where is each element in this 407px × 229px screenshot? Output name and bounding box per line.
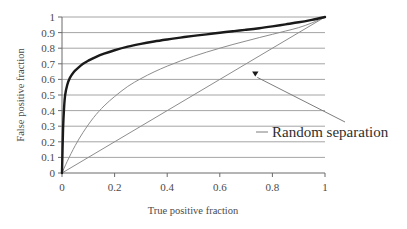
chart-canvas: 1 0.9 0.8 0.7 0.6 0.5 0.4 0.3 0.2 0.1 0 … [0,0,407,229]
y-tick-label: 0.1 [41,151,55,163]
annotation-label: Random separation [272,124,389,140]
y-tick-label: 0.4 [41,105,55,117]
y-tick-label: 0.8 [41,42,55,54]
x-tick-label: 0.4 [160,181,174,193]
y-tick-label: 0.3 [41,120,55,132]
y-tick-label: 0.6 [41,73,55,85]
x-tick-label: 0.8 [266,181,280,193]
x-axis-title: True positive fraction [148,205,239,216]
y-tick-label: 0.9 [41,27,55,39]
x-tick-label: 0.2 [108,181,122,193]
roc-chart: 1 0.9 0.8 0.7 0.6 0.5 0.4 0.3 0.2 0.1 0 … [0,0,407,229]
x-tick-marks [62,173,325,177]
x-tick-labels: 0 0.2 0.4 0.6 0.8 1 [59,181,328,193]
y-axis-title: False positive fraction [15,48,26,142]
x-tick-label: 1 [322,181,328,193]
y-tick-label: 0 [50,167,56,179]
y-tick-label: 0.2 [41,136,55,148]
x-tick-label: 0 [59,181,65,193]
y-tick-label: 0.5 [41,89,55,101]
y-tick-labels: 1 0.9 0.8 0.7 0.6 0.5 0.4 0.3 0.2 0.1 0 [41,11,55,179]
y-tick-label: 0.7 [41,58,55,70]
y-tick-label: 1 [50,11,56,23]
x-tick-label: 0.6 [213,181,227,193]
